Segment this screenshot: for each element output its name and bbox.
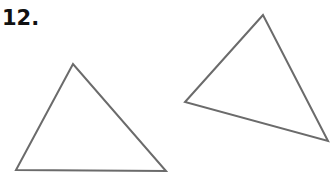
triangles-figure bbox=[0, 0, 332, 179]
left-triangle bbox=[16, 64, 166, 171]
right-triangle bbox=[185, 15, 328, 141]
